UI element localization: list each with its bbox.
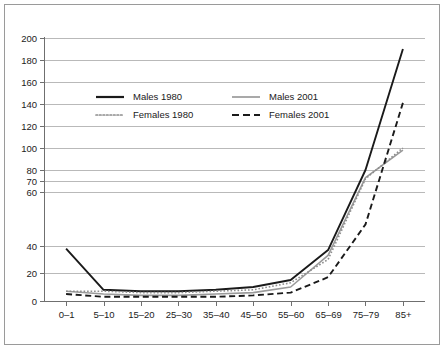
chart-figure: 020406070801001201401601802000–15–1015–2… [0, 0, 444, 349]
y-tick-label: 40 [26, 241, 37, 252]
y-tick-label: 80 [26, 165, 37, 176]
x-tick-label: 5–10 [93, 309, 114, 320]
y-tick-label: 160 [21, 77, 37, 88]
y-tick-label: 200 [21, 33, 37, 44]
x-tick-label: 25–30 [166, 309, 192, 320]
legend-label-females-1980: Females 1980 [133, 109, 193, 120]
y-tick-label: 70 [26, 176, 37, 187]
y-tick-label: 0 [32, 296, 37, 307]
x-tick-label: 75–79 [353, 309, 379, 320]
x-tick-label: 85+ [395, 309, 412, 320]
y-tick-label: 100 [21, 143, 37, 154]
y-tick-label: 20 [26, 268, 37, 279]
line-chart: 020406070801001201401601802000–15–1015–2… [0, 0, 444, 349]
y-tick-label: 120 [21, 121, 37, 132]
x-tick-label: 45–50 [241, 309, 267, 320]
y-tick-label: 140 [21, 99, 37, 110]
x-tick-label: 15–20 [128, 309, 154, 320]
y-tick-label: 180 [21, 55, 37, 66]
x-tick-label: 0–1 [59, 309, 75, 320]
legend-label-females-2001: Females 2001 [269, 109, 329, 120]
x-tick-label: 35–40 [203, 309, 229, 320]
y-tick-label: 60 [26, 187, 37, 198]
x-tick-label: 55–60 [278, 309, 304, 320]
series-line-females-1980 [66, 148, 403, 293]
x-tick-label: 65–69 [315, 309, 341, 320]
legend-label-males-2001: Males 2001 [269, 91, 318, 102]
legend-label-males-1980: Males 1980 [133, 91, 182, 102]
